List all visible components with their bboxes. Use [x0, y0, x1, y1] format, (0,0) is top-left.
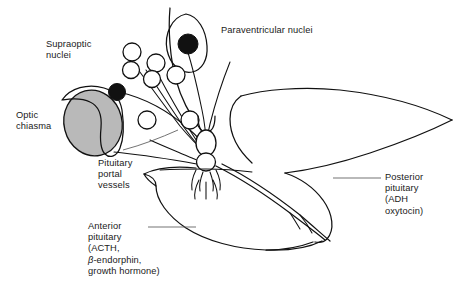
label-supraoptic-nuclei: Supraopticnuclei: [46, 39, 91, 61]
leader-portal-vessels: [123, 130, 178, 150]
label-anterior-pituitary: Anteriorpituitary(ACTH,β-endorphin,growt…: [88, 221, 160, 277]
label-pituitary-portal-vessels: Pituitaryportalvessels: [98, 158, 132, 192]
anatomical-diagram: Supraopticnuclei Paraventricular nuclei …: [0, 0, 459, 290]
label-paraventricular-nuclei: Paraventricular nuclei: [221, 25, 313, 36]
label-posterior-pituitary: Posteriorpituitary(ADHoxytocin): [385, 172, 423, 217]
label-optic-chiasma: Opticchiasma: [16, 110, 51, 132]
